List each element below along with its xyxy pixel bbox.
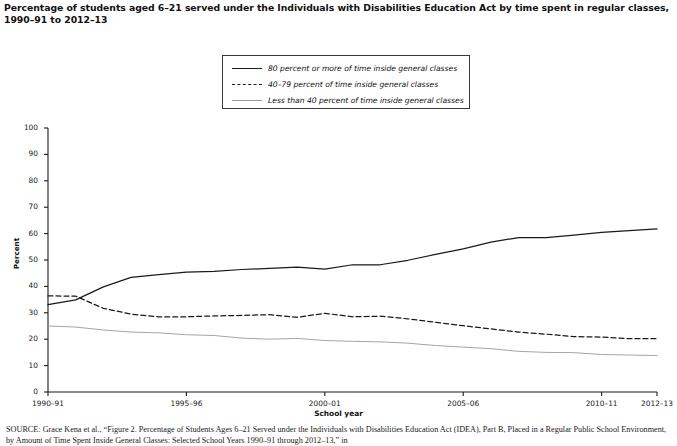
x-axis-title: School year xyxy=(0,409,677,418)
x-tick-label: 1995–96 xyxy=(170,399,202,408)
x-tick-label: 2012–13 xyxy=(641,399,673,408)
y-tick-label: 70 xyxy=(12,202,38,211)
y-tick-label: 30 xyxy=(12,308,38,317)
x-tick-label: 2010–11 xyxy=(586,399,618,408)
chart-plot-area: 0102030405060708090100 1990–911995–96200… xyxy=(0,0,677,446)
x-tick-label: 1990–91 xyxy=(32,399,64,408)
line-chart-svg xyxy=(0,0,677,446)
series-line-2 xyxy=(48,326,657,356)
series-line-0 xyxy=(48,229,657,305)
chart-series xyxy=(48,229,657,356)
y-tick-label: 20 xyxy=(12,334,38,343)
x-tick-label: 2000–01 xyxy=(309,399,341,408)
y-tick-label: 80 xyxy=(12,176,38,185)
source-prefix: SOURCE: xyxy=(6,425,41,434)
y-tick-label: 0 xyxy=(12,387,38,396)
chart-axes xyxy=(44,128,657,396)
y-tick-label: 90 xyxy=(12,149,38,158)
x-tick-label: 2005–06 xyxy=(447,399,479,408)
source-note: SOURCE: Grace Kena et al., “Figure 2. Pe… xyxy=(6,424,674,446)
source-text: Grace Kena et al., “Figure 2. Percentage… xyxy=(41,425,506,434)
y-tick-label: 100 xyxy=(12,123,38,132)
y-tick-label: 40 xyxy=(12,281,38,290)
y-axis-title: Percent xyxy=(12,230,21,278)
y-tick-label: 10 xyxy=(12,361,38,370)
